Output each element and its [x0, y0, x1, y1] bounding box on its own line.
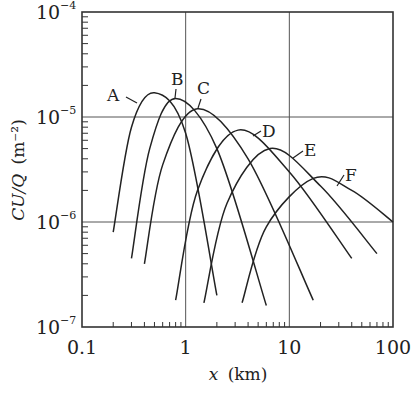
- svg-text:−7: −7: [60, 314, 76, 327]
- curve-b: [131, 99, 266, 306]
- chart: ABCDEF 0.1110100 10−410−510−610−7 x (km)…: [0, 0, 416, 394]
- curves: [113, 93, 393, 306]
- x-tick-label: 100: [375, 336, 411, 358]
- curve-label-b: B: [171, 69, 184, 89]
- curve-c: [144, 109, 313, 301]
- curve-labels: ABCDEF: [106, 69, 357, 186]
- curve-d: [176, 130, 352, 300]
- curve-f: [242, 177, 393, 303]
- x-tick-label: 10: [277, 336, 301, 358]
- curve-label-a: A: [106, 85, 120, 105]
- y-tick-label: 10: [36, 106, 60, 128]
- curve-label-e: E: [304, 140, 316, 160]
- curve-a: [113, 93, 217, 296]
- curve-label-f: F: [345, 165, 357, 185]
- y-tick-label: 10: [36, 211, 60, 233]
- curve-label-c: C: [197, 78, 210, 98]
- minor-ticks: [82, 17, 388, 327]
- svg-text:−6: −6: [60, 209, 76, 222]
- curve-label-d: D: [262, 121, 276, 141]
- x-tick-label: 0.1: [67, 336, 97, 358]
- svg-text:−4: −4: [60, 0, 76, 12]
- y-tick-labels: 10−410−510−610−7: [36, 0, 76, 338]
- x-axis-label: x (km): [209, 364, 268, 384]
- y-axis-label: CU/Q (m⁻²): [8, 119, 28, 221]
- x-tick-labels: 0.1110100: [67, 336, 411, 358]
- y-tick-label: 10: [36, 1, 60, 23]
- x-tick-label: 1: [180, 336, 192, 358]
- y-tick-label: 10: [36, 316, 60, 338]
- svg-text:−5: −5: [60, 104, 76, 117]
